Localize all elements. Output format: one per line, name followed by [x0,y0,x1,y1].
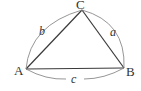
side-a-line [82,10,124,68]
side-c-line [26,68,124,69]
side-c-label: c [71,72,77,86]
side-c-arc-left [26,69,66,79]
triangle-svg: C A B b a c [0,0,141,91]
triangle-diagram: C A B b a c [0,0,141,91]
side-c-arc-right [84,68,124,79]
vertex-b-label: B [126,64,135,79]
side-b-line [26,10,82,69]
vertex-c-label: C [76,0,85,12]
vertex-a-label: A [14,63,24,78]
side-a-label: a [110,25,116,39]
side-b-label: b [39,24,45,38]
